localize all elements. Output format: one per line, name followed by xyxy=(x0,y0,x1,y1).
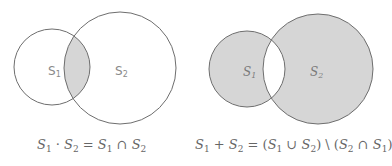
symmetric-difference-formula: S1 + S2 = (S1 ∪ S2) \ (S2 ∩ S1) xyxy=(195,137,392,153)
symmetric-difference-diagram: S1 S2 xyxy=(209,14,373,124)
intersection-formula: S1 · S2 = S1 ∩ S2 xyxy=(37,137,146,153)
set-s1-label: S1 xyxy=(48,64,61,79)
set-s2-label: S2 xyxy=(115,64,128,79)
intersection-diagram: S1 S2 xyxy=(14,12,176,124)
